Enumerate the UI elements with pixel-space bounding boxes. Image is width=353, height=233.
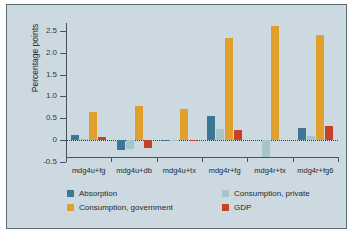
legend-label: Absorption: [79, 189, 117, 198]
x-tick-mark: [338, 157, 339, 162]
bar: [271, 26, 279, 140]
chart-legend: AbsorptionConsumption, privateConsumptio…: [57, 189, 342, 221]
y-tick-label: 2.5: [7, 27, 57, 35]
bar: [80, 139, 88, 140]
bar: [144, 140, 152, 148]
legend-color-swatch: [67, 190, 74, 197]
legend-item[interactable]: Consumption, private: [222, 189, 310, 198]
bar: [117, 140, 125, 150]
x-tick-mark: [157, 157, 158, 162]
x-tick-mark: [111, 157, 112, 162]
y-tick-mark: [60, 118, 66, 119]
bar: [262, 140, 270, 157]
y-axis-line: [66, 23, 67, 157]
bar: [307, 136, 315, 140]
y-tick-label: -0.5: [7, 158, 57, 166]
legend-label: Consumption, government: [79, 203, 173, 212]
legend-color-swatch: [67, 204, 74, 211]
x-axis-category-label: mdg4u+db: [111, 166, 156, 175]
legend-item[interactable]: GDP: [222, 203, 251, 212]
x-tick-mark: [293, 157, 294, 162]
y-tick-mark: [60, 53, 66, 54]
bar: [98, 137, 106, 140]
y-tick-label: 1.5: [7, 71, 57, 79]
bar: [216, 129, 224, 140]
figure-panel: Percentage points 2.52.01.51.00.50-0.5 m…: [6, 4, 347, 229]
legend-color-swatch: [222, 190, 229, 197]
chart-screenshot: Percentage points 2.52.01.51.00.50-0.5 m…: [0, 0, 353, 233]
bar: [298, 128, 306, 140]
y-tick-mark: [60, 75, 66, 76]
x-axis-category-label: mdg4r+fg: [202, 166, 247, 175]
bar: [126, 140, 134, 149]
bar: [180, 109, 188, 140]
x-tick-mark: [202, 157, 203, 162]
legend-label: GDP: [234, 203, 251, 212]
bar: [162, 140, 170, 141]
legend-item[interactable]: Absorption: [67, 189, 117, 198]
bar: [189, 140, 197, 141]
bar: [234, 130, 242, 140]
x-axis-category-label: mdg4u+fg: [66, 166, 111, 175]
legend-item[interactable]: Consumption, government: [67, 203, 173, 212]
x-tick-mark: [66, 157, 67, 162]
x-axis-category-label: mdg4u+tx: [157, 166, 202, 175]
legend-label: Consumption, private: [234, 189, 310, 198]
bar: [316, 35, 324, 140]
x-axis-category-label: mdg4r+tx: [247, 166, 292, 175]
legend-color-swatch: [222, 204, 229, 211]
y-tick-label: 1.0: [7, 92, 57, 100]
y-tick-label: 2.0: [7, 49, 57, 57]
bar: [89, 112, 97, 140]
y-tick-mark: [60, 31, 66, 32]
x-tick-mark: [247, 157, 248, 162]
bar: [135, 106, 143, 140]
bar: [71, 135, 79, 140]
x-axis-category-label: mdg4r+fg6: [293, 166, 338, 175]
y-tick-label: 0.5: [7, 114, 57, 122]
y-tick-mark: [60, 96, 66, 97]
zero-reference-line: [66, 140, 338, 142]
bar: [207, 116, 215, 140]
bar: [325, 126, 333, 140]
y-tick-label: 0: [7, 136, 57, 144]
bar: [225, 38, 233, 140]
bar: [171, 140, 179, 141]
